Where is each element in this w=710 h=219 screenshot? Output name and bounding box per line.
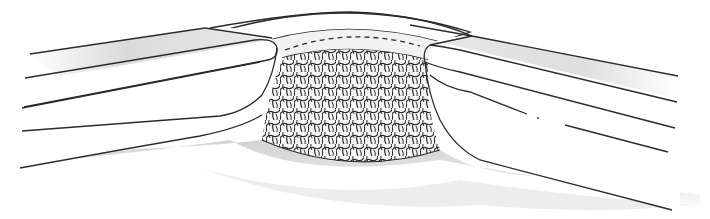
mesh-repair-illustration: [0, 0, 710, 219]
mesh-implant: [262, 49, 440, 161]
illustration-canvas: [0, 0, 710, 219]
